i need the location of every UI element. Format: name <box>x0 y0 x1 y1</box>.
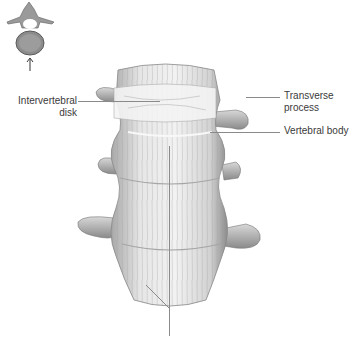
leader-intervertebral-disk <box>78 101 160 102</box>
label-intervertebral-disk: Intervertebral disk <box>9 95 77 119</box>
leader-vertebral-body <box>210 132 280 133</box>
label-vertebral-body: Vertebral body <box>284 125 349 137</box>
label-transverse-process: Transverse process <box>284 90 334 114</box>
leader-bottom-diagonal <box>146 285 171 310</box>
leader-transverse-process <box>246 97 280 98</box>
anatomy-figure: Intervertebral disk Transverse process V… <box>0 0 351 341</box>
lumbar-spine-illustration <box>0 0 351 341</box>
